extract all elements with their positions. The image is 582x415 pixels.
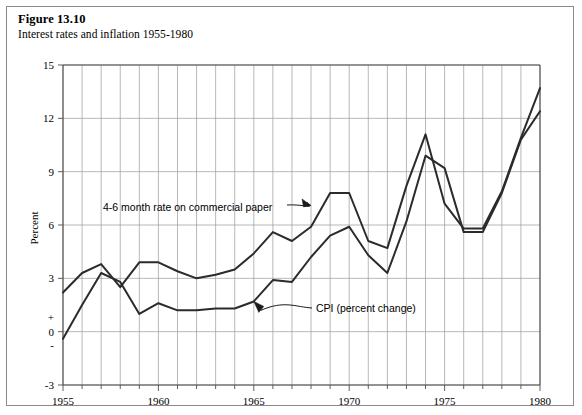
y-axis-title: Percent [28,212,40,245]
zero-plus-sign: + [48,311,54,323]
x-tick-label: 1965 [243,395,266,407]
data-series-lines [63,88,540,339]
annotation-arrow-commercial-paper [302,199,311,207]
horizontal-gridlines [63,65,540,385]
annotation-label-commercial-paper: 4-6 month rate on commercial paper [103,201,273,213]
x-axis-ticks [63,385,540,391]
x-tick-label: 1970 [338,395,361,407]
y-tick-label: 0 [49,326,55,338]
zero-minus-sign: - [50,339,54,351]
x-tick-label: 1955 [52,395,75,407]
annotation-label-cpi: CPI (percent change) [316,302,416,314]
y-tick-label: -3 [45,379,55,391]
series-line-commercial-paper [63,88,540,292]
line-chart: -303691215 195519601965197019751980 +- 4… [0,0,582,415]
y-tick-label: 6 [49,219,55,231]
y-tick-label: 9 [49,166,55,178]
x-tick-label: 1975 [434,395,457,407]
annotation-arrow-cpi [254,301,264,312]
x-tick-label: 1980 [529,395,552,407]
x-tick-label: 1960 [147,395,170,407]
y-tick-label: 3 [49,272,55,284]
y-tick-label: 15 [43,59,55,71]
x-axis-tick-labels: 195519601965197019751980 [52,395,552,407]
y-tick-label: 12 [43,112,54,124]
